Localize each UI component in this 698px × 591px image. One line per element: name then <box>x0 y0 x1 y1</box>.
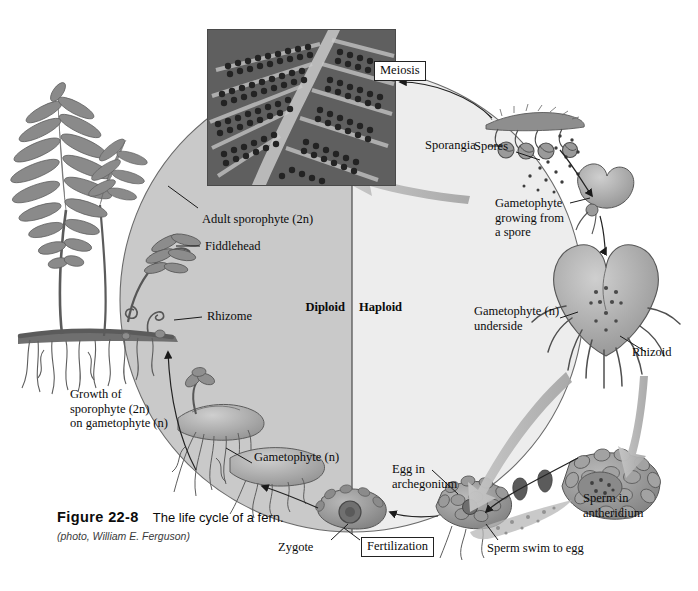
figure-number: Figure 22-8 <box>57 509 139 525</box>
label-spores: Spores <box>474 139 508 154</box>
fern-life-cycle-figure: Meiosis Fertilization Diploid Haploid Ad… <box>0 0 698 591</box>
photo-credit: (photo, William E. Ferguson) <box>57 530 397 542</box>
label-fiddlehead: Fiddlehead <box>205 239 261 254</box>
label-gametophyte-n: Gametophyte (n) <box>254 450 339 465</box>
diploid-label: Diploid <box>305 300 345 315</box>
figure-title: The life cycle of a fern. <box>153 510 284 525</box>
label-zygote: Zygote <box>278 540 313 555</box>
label-growth-of-sporophyte: Growth of sporophyte (2n) on gametophyte… <box>70 387 168 431</box>
label-gametophyte-growing: Gametophyte growing from a spore <box>495 196 564 240</box>
label-sporangia: Sporangia <box>425 138 476 153</box>
figure-caption: Figure 22-8 The life cycle of a fern. (p… <box>57 508 397 542</box>
label-adult-sporophyte: Adult sporophyte (2n) <box>202 212 313 227</box>
label-rhizome: Rhizome <box>207 309 252 324</box>
meiosis-box: Meiosis <box>374 61 426 81</box>
sori-photograph <box>207 29 396 186</box>
label-sperm-in-antheridium: Sperm in antheridium <box>583 491 643 520</box>
label-rhizoid: Rhizoid <box>632 345 672 360</box>
label-sperm-swim-to-egg: Sperm swim to egg <box>487 541 584 556</box>
haploid-label: Haploid <box>359 300 402 315</box>
label-egg-in-archegonium: Egg in archegonium <box>392 462 457 491</box>
label-gametophyte-underside: Gametophyte (n) underside <box>474 304 559 333</box>
